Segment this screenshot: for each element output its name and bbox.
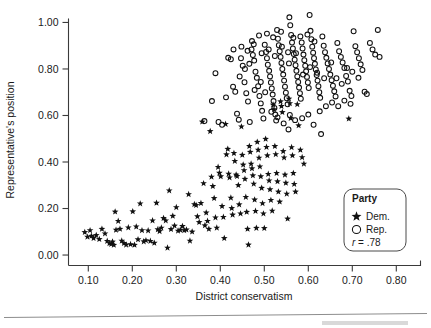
x-tick-label: 0.60 [298, 274, 319, 286]
legend-correlation: r = .78 [352, 237, 381, 248]
scatter-plot-figure: 0.000.200.400.600.801.00 0.100.200.300.4… [0, 0, 431, 328]
scatter-plot-canvas: 0.000.200.400.600.801.00 0.100.200.300.4… [0, 0, 431, 328]
legend-label-rep: Rep. [366, 224, 387, 235]
x-tick-label: 0.30 [166, 274, 187, 286]
x-tick-label: 0.20 [122, 274, 143, 286]
x-tick-label: 0.10 [78, 274, 99, 286]
x-tick-label: 0.40 [210, 274, 231, 286]
y-tick-label: 0.00 [38, 249, 59, 261]
legend-title: Party [352, 193, 377, 204]
y-tick-label: 0.80 [38, 63, 59, 75]
y-tick-label: 1.00 [38, 16, 59, 28]
x-tick-label: 0.50 [254, 274, 275, 286]
y-axis-title: Representative's position [4, 81, 16, 198]
x-axis-title: District conservatism [196, 290, 293, 302]
x-tick-label: 0.80 [386, 274, 407, 286]
y-tick-label: 0.40 [38, 156, 59, 168]
y-tick-label: 0.20 [38, 202, 59, 214]
x-tick-label: 0.70 [342, 274, 363, 286]
y-tick-label: 0.60 [38, 109, 59, 121]
legend-label-dem: Dem. [366, 211, 390, 222]
caption-text-smudge [322, 321, 408, 325]
legend[interactable]: Party Dem. Rep. r = .78 [344, 189, 406, 251]
